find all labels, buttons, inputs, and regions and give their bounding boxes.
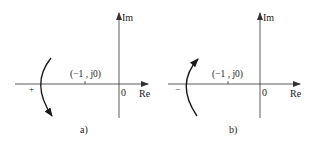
crossing-sign-a: + (29, 84, 34, 94)
critical-point-label-a: (−1 , j0) (70, 69, 101, 80)
nyquist-curve-b (186, 59, 198, 116)
origin-label-b: 0 (262, 87, 267, 98)
caption-a: a) (80, 124, 88, 136)
origin-label-a: 0 (121, 87, 126, 98)
im-label-b: Im (263, 12, 274, 23)
re-label-a: Re (139, 88, 151, 99)
figure-svg: Im Re 0 (−1 , j0) + a) Im Re 0 (−1 , j0)… (0, 0, 313, 144)
crossing-sign-b: − (175, 84, 180, 94)
panel-a: Im Re 0 (−1 , j0) + a) (15, 12, 151, 136)
re-label-b: Re (290, 88, 302, 99)
critical-point-label-b: (−1 , j0) (212, 69, 243, 80)
panel-b: Im Re 0 (−1 , j0) − b) (168, 12, 302, 136)
nyquist-crossing-figure: Im Re 0 (−1 , j0) + a) Im Re 0 (−1 , j0)… (0, 0, 313, 144)
nyquist-curve-a (41, 58, 52, 116)
caption-b: b) (229, 124, 237, 136)
im-label-a: Im (122, 12, 133, 23)
